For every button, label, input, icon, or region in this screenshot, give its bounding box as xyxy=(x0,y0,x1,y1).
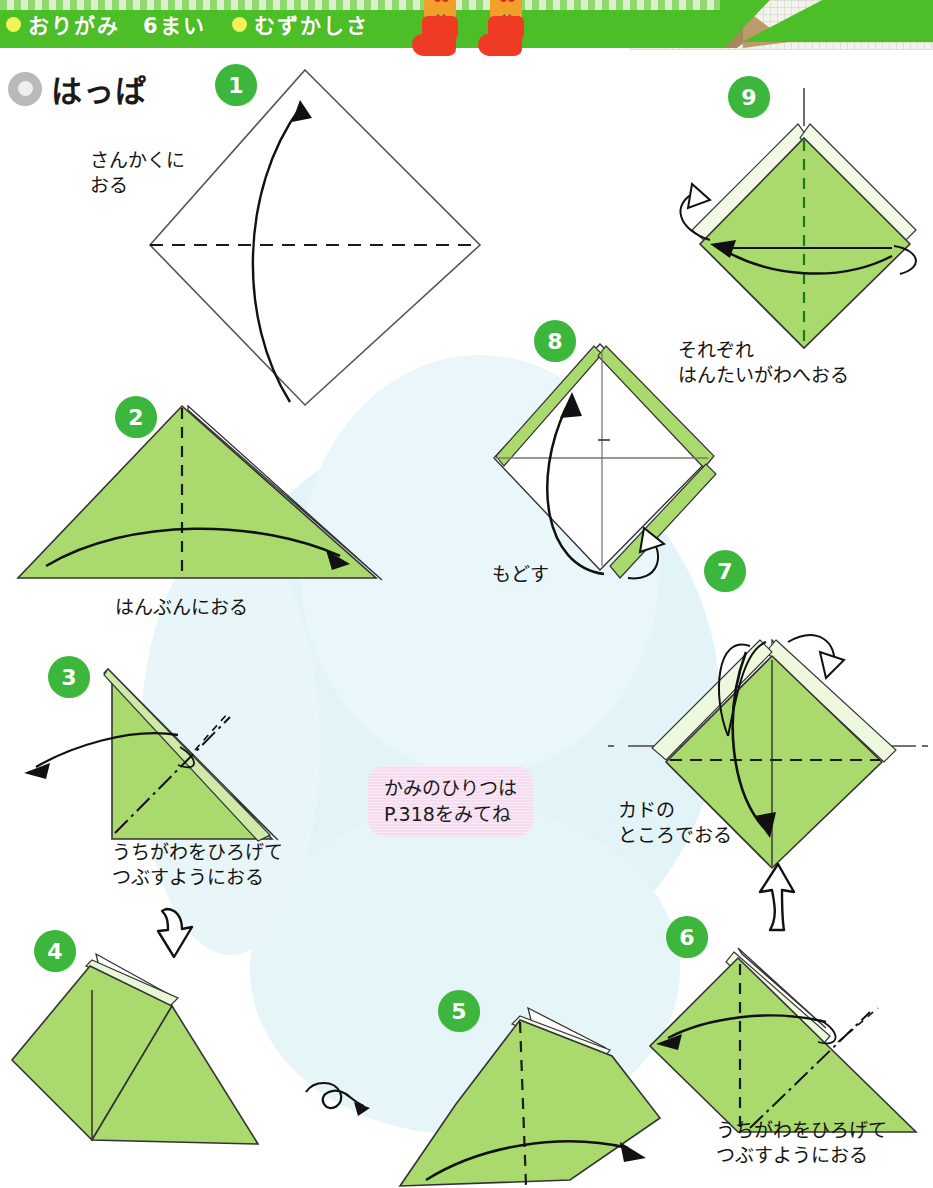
turn-over-loop-icon xyxy=(300,1078,374,1130)
header-item-difficulty: むずかしさ xyxy=(232,9,369,39)
step-badge-1: 1 xyxy=(217,66,255,104)
header-item-label: おりがみ 6まい xyxy=(28,9,206,39)
hollow-arrow-up-icon xyxy=(752,862,800,938)
step-diagram-3 xyxy=(0,655,310,859)
step-badge-3: 3 xyxy=(50,658,88,696)
page-title: はっぱ xyxy=(8,66,147,111)
page-title-label: はっぱ xyxy=(51,66,147,111)
step-diagram-2 xyxy=(10,398,390,592)
step-badge-7: 7 xyxy=(706,552,744,590)
gray-ring-icon xyxy=(8,72,42,106)
step-badge-5: 5 xyxy=(440,992,478,1030)
yellow-dot-icon xyxy=(6,17,21,32)
christmas-stocking-icon xyxy=(414,0,466,56)
step-diagram-4 xyxy=(0,948,300,1188)
step-diagram-9 xyxy=(648,80,933,374)
step-badge-2: 2 xyxy=(117,398,155,436)
step-badge-9: 9 xyxy=(730,78,768,116)
header-item-label: むずかしさ xyxy=(254,9,369,39)
step-caption-8: もどす xyxy=(492,562,549,587)
yellow-dot-icon xyxy=(232,17,247,32)
step-caption-7: カドの ところでおる xyxy=(618,798,732,848)
header-banner: おりがみ 6まい むずかしさ xyxy=(0,0,933,58)
step-caption-6: うちがわをひろげて つぶすようにおる xyxy=(716,1118,887,1168)
step-caption-2: はんぶんにおる xyxy=(115,595,248,620)
hollow-arrow-down-icon xyxy=(152,905,200,967)
step-caption-3: うちがわをひろげて つぶすようにおる xyxy=(112,840,283,890)
step-caption-1: さんかくに おる xyxy=(90,148,185,198)
header-item-paper-count: おりがみ 6まい xyxy=(6,9,206,39)
christmas-stocking-icon xyxy=(480,0,532,56)
paper-ratio-note: かみのひりつは P.318をみてね xyxy=(368,766,533,837)
step-badge-8: 8 xyxy=(536,322,574,360)
step-caption-9: それぞれ はんたいがわへおる xyxy=(678,338,849,388)
step-badge-6: 6 xyxy=(668,918,706,956)
step-badge-4: 4 xyxy=(36,932,74,970)
